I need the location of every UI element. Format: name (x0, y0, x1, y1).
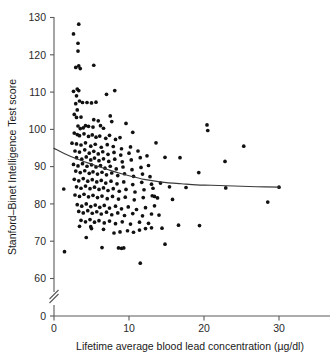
data-point (102, 157, 106, 161)
data-point (93, 220, 97, 224)
data-point (120, 207, 124, 211)
data-point (111, 145, 115, 149)
data-point (110, 213, 114, 217)
data-point (171, 198, 175, 202)
data-point (114, 204, 118, 208)
data-point (140, 180, 144, 184)
data-point (102, 204, 106, 208)
data-point (178, 156, 182, 160)
data-point (126, 229, 130, 233)
x-axis-ticks (54, 316, 279, 321)
data-point (84, 220, 88, 224)
data-point (224, 186, 228, 190)
data-point (106, 189, 110, 193)
y-tick-label: 60 (34, 272, 46, 284)
data-point (102, 126, 106, 130)
data-point (139, 166, 143, 170)
data-point (266, 200, 270, 204)
y-tick-label: 80 (34, 198, 46, 210)
data-point (119, 153, 123, 157)
data-point (112, 151, 116, 155)
data-point (104, 136, 108, 140)
x-tick-label: 20 (198, 322, 210, 334)
data-point (93, 203, 97, 207)
data-point (184, 186, 188, 190)
data-point (126, 205, 130, 209)
data-point (96, 196, 100, 200)
data-point (138, 228, 142, 232)
data-point (100, 170, 104, 174)
data-point (84, 155, 88, 159)
data-point (157, 213, 161, 217)
x-tick-label: 10 (123, 322, 135, 334)
data-point (107, 160, 111, 164)
data-point (144, 206, 148, 210)
data-point (150, 212, 154, 216)
data-point (88, 218, 92, 222)
data-point (95, 210, 99, 214)
data-point (76, 164, 80, 168)
data-point (82, 132, 86, 136)
data-point (129, 222, 133, 226)
data-point (106, 152, 110, 156)
data-point (102, 227, 106, 231)
data-point (154, 141, 158, 145)
data-point (138, 261, 142, 265)
data-point (131, 212, 135, 216)
data-point (111, 187, 115, 191)
data-point (114, 222, 118, 226)
data-point (136, 149, 140, 153)
data-point (142, 188, 146, 192)
data-point (91, 125, 95, 129)
data-point (78, 224, 82, 228)
plot-canvas: 130 120 110 100 90 80 70 60 0 0 10 20 30 (0, 0, 336, 362)
data-point (96, 152, 100, 156)
data-point (105, 210, 109, 214)
y-tick-labels: 130 120 110 100 90 80 70 60 0 (28, 11, 46, 322)
data-point (141, 214, 145, 218)
data-point (79, 186, 83, 190)
data-point (78, 150, 82, 154)
data-point (101, 150, 105, 154)
data-point (89, 205, 93, 209)
data-point (121, 165, 125, 169)
data-point (90, 133, 94, 137)
data-point (73, 149, 77, 153)
data-point (144, 227, 148, 231)
data-point (108, 114, 112, 118)
data-point (197, 171, 201, 175)
y-tick-label: 70 (34, 235, 46, 247)
data-point (88, 187, 92, 191)
data-point (105, 143, 109, 147)
data-point (91, 170, 95, 174)
data-point (87, 135, 91, 139)
data-point (90, 227, 94, 231)
data-point (77, 22, 81, 26)
data-point (92, 118, 96, 122)
data-point (73, 193, 77, 197)
data-point (93, 142, 97, 146)
x-tick-labels: 0 10 20 30 (51, 322, 285, 334)
data-point (129, 145, 133, 149)
data-point (81, 177, 85, 181)
data-point (108, 206, 112, 210)
data-point (223, 160, 227, 164)
data-point (132, 230, 136, 234)
data-point (141, 196, 145, 200)
data-point (120, 220, 124, 224)
data-point (89, 158, 93, 162)
data-point (78, 171, 82, 175)
data-point (81, 101, 85, 105)
data-point (91, 194, 95, 198)
data-point (79, 143, 83, 147)
data-point (84, 141, 88, 145)
data-point (97, 159, 101, 163)
data-point (102, 221, 106, 225)
data-point (124, 122, 128, 126)
data-point (84, 184, 88, 188)
data-point (83, 169, 87, 173)
scatter-plot-figure: 130 120 110 100 90 80 70 60 0 0 10 20 30 (0, 0, 336, 362)
y-tick-label: 110 (29, 86, 46, 98)
data-point (83, 148, 87, 152)
data-point (81, 126, 85, 130)
